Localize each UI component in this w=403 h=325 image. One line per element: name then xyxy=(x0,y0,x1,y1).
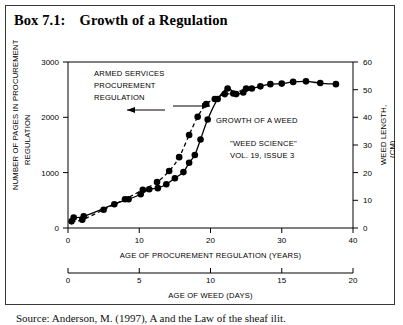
data-point xyxy=(79,216,86,223)
data-point xyxy=(267,81,274,88)
annotation-growth-of-a-weed: GROWTH OF A WEED xyxy=(216,116,298,125)
data-point xyxy=(180,169,187,176)
left-arrow-icon xyxy=(127,107,165,113)
data-point xyxy=(243,85,250,92)
left-tick-label-0: 0 xyxy=(55,224,60,233)
annotation-weed-science: "WEED SCIENCE" xyxy=(230,139,297,148)
bottom-axis-days-title: AGE OF WEED (DAYS) xyxy=(168,291,253,300)
data-point xyxy=(192,152,199,159)
box-title: Box 7.1:Growth of a Regulation xyxy=(14,12,228,29)
annotation-armed-services: ARMED SERVICES xyxy=(94,69,165,78)
annotation-volume-issue: VOL. 19, ISSUE 3 xyxy=(230,151,294,160)
right-tick-label-30: 30 xyxy=(363,141,372,150)
data-point xyxy=(230,90,237,97)
data-point xyxy=(100,206,107,213)
right-tick-label-0: 0 xyxy=(363,224,368,233)
bottom-axis-days-ticks xyxy=(68,268,353,273)
right-axis-ticks xyxy=(353,62,358,228)
data-point xyxy=(257,83,264,90)
data-point xyxy=(172,175,179,182)
right-tick-label-40: 40 xyxy=(363,113,372,122)
left-tick-label-3000: 3000 xyxy=(41,58,59,67)
data-point xyxy=(186,132,193,139)
right-tick-label-20: 20 xyxy=(363,169,372,178)
data-point xyxy=(176,154,183,161)
left-axis-title-line2: REGULATION xyxy=(23,114,32,165)
figure-page: Box 7.1:Growth of a Regulation 3000 2000… xyxy=(0,0,403,325)
data-point xyxy=(249,85,256,92)
left-axis-title-line1: NUMBER OF PAGES IN PROCUREMENT xyxy=(11,40,20,190)
left-axis-ticks xyxy=(63,62,68,228)
data-point xyxy=(122,196,129,203)
data-point xyxy=(68,218,75,225)
bottom-axis-years-title: AGE OF PROCUREMENT REGULATION (YEARS) xyxy=(120,251,302,260)
data-point xyxy=(303,78,310,85)
annotation-regulation: REGULATION xyxy=(94,93,145,102)
right-tick-label-60: 60 xyxy=(363,58,372,67)
bottom-axis-years-ticks xyxy=(68,228,353,233)
right-tick-label-10: 10 xyxy=(363,196,372,205)
years-tick-label-40: 40 xyxy=(349,236,358,245)
data-point xyxy=(197,136,204,143)
data-point xyxy=(317,80,324,87)
data-point xyxy=(204,116,211,123)
data-point xyxy=(146,186,153,193)
right-tick-label-50: 50 xyxy=(363,86,372,95)
box-number-label: Box 7.1: xyxy=(14,12,66,28)
series-line-1 xyxy=(72,89,247,222)
chart-figure: 3000 2000 1000 0 NUMBER OF PAGES IN PROC… xyxy=(5,40,395,305)
data-point xyxy=(194,113,201,120)
data-point xyxy=(333,81,340,88)
data-point xyxy=(154,179,161,186)
data-point xyxy=(211,96,218,103)
figure-caption: Source: Anderson, M. (1997), A and the L… xyxy=(16,312,388,324)
data-point xyxy=(166,168,173,175)
days-tick-label-15: 15 xyxy=(277,276,286,285)
data-point xyxy=(221,91,228,98)
days-tick-label-0: 0 xyxy=(66,276,71,285)
chart-svg: 3000 2000 1000 0 NUMBER OF PAGES IN PROC… xyxy=(5,40,395,305)
years-tick-label-10: 10 xyxy=(135,236,144,245)
annotation-procurement: PROCUREMENT xyxy=(94,81,156,90)
data-point xyxy=(163,181,170,188)
days-tick-label-5: 5 xyxy=(137,276,142,285)
right-axis-title-line1: WEED LENGTH, xyxy=(379,105,388,165)
left-tick-label-2000: 2000 xyxy=(41,113,59,122)
days-tick-label-10: 10 xyxy=(206,276,215,285)
data-point xyxy=(290,79,297,86)
box-title-text: Growth of a Regulation xyxy=(80,12,228,28)
data-point xyxy=(186,159,193,166)
data-point xyxy=(111,201,118,208)
years-tick-label-0: 0 xyxy=(66,236,71,245)
data-point xyxy=(140,187,147,194)
data-point xyxy=(278,80,285,87)
left-tick-label-1000: 1000 xyxy=(41,169,59,178)
days-tick-label-20: 20 xyxy=(349,276,358,285)
right-axis-title-line2: (CM) xyxy=(388,140,395,158)
years-tick-label-20: 20 xyxy=(206,236,215,245)
data-point xyxy=(154,185,161,192)
years-tick-label-30: 30 xyxy=(277,236,286,245)
